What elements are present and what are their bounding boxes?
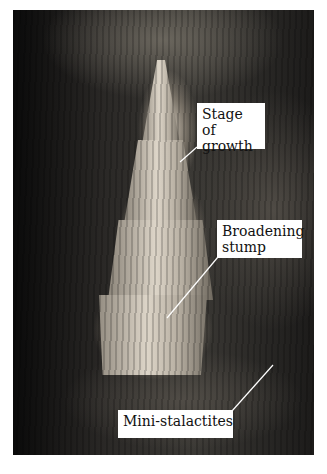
leader-line-mini [232, 365, 273, 411]
leader-line-stump [167, 257, 218, 318]
label-broadening-stump: Broadening stump [217, 220, 302, 258]
label-mini-stalactites: Mini-stalactites [118, 410, 233, 438]
label-stage-of-growth: Stage of growth [197, 103, 265, 149]
leader-line-stage [180, 147, 197, 162]
